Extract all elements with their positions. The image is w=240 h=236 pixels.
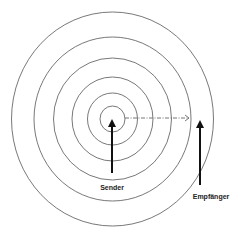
sender-label: Sender [100,184,124,191]
wave-ring-6 [12,12,214,226]
wave-ring-5 [34,37,191,201]
concentric-wave-rings [12,12,214,226]
sender-arrow-icon [108,119,116,173]
wave-propagation-diagram: Sender Empfänger [0,0,240,236]
receiver-label: Empfänger [193,193,230,201]
propagation-direction-arrow [125,115,189,121]
receiver-arrow-icon [196,120,204,185]
